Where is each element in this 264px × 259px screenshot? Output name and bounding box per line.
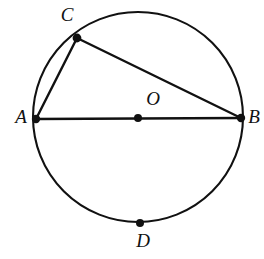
- point-b-dot: [237, 114, 245, 122]
- point-a-dot: [32, 115, 40, 123]
- geometry-figure-circle: A B C D O: [0, 0, 264, 259]
- point-b-label: B: [248, 106, 260, 127]
- point-c-dot: [73, 34, 82, 43]
- point-d-label: D: [135, 230, 150, 251]
- point-o-label: O: [146, 88, 160, 109]
- point-d-dot: [136, 219, 144, 227]
- point-a-label: A: [13, 106, 27, 127]
- point-o-center-dot: [134, 114, 142, 122]
- point-c-label: C: [61, 4, 74, 25]
